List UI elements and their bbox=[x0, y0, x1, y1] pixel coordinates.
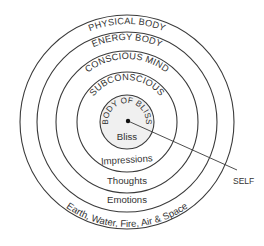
self-center-dot bbox=[126, 119, 130, 123]
layer-content-emotions: Emotions bbox=[107, 194, 147, 205]
self-layers-diagram: PHYSICAL BODY ENERGY BODY CONSCIOUS MIND… bbox=[0, 0, 264, 246]
layer-name-subconscious: SUBCONSCIOUS bbox=[88, 72, 167, 98]
layer-name-energy-body: ENERGY BODY bbox=[90, 32, 164, 49]
layer-content-bliss: Bliss bbox=[117, 131, 137, 142]
layer-name-conscious-mind: CONSCIOUS MIND bbox=[83, 51, 171, 74]
layer-content-thoughts: Thoughts bbox=[107, 175, 147, 186]
layer-content-impressions: Impressions bbox=[101, 152, 154, 167]
self-label: SELF bbox=[233, 176, 254, 186]
